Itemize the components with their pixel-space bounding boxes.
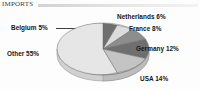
label-belgium: Belgium 5% bbox=[11, 24, 48, 32]
pie-chart: Netherlands 6% France 8% Germany 12% USA… bbox=[0, 9, 200, 89]
label-germany: Germany 12% bbox=[136, 45, 179, 53]
label-france: France 8% bbox=[129, 25, 161, 33]
page-title: IMPORTS bbox=[2, 0, 33, 8]
chart-page: IMPORTS bbox=[0, 0, 200, 89]
label-usa: USA 14% bbox=[140, 75, 168, 83]
label-other: Other 55% bbox=[7, 50, 39, 58]
label-netherlands: Netherlands 6% bbox=[117, 13, 166, 21]
header-divider bbox=[38, 4, 198, 7]
